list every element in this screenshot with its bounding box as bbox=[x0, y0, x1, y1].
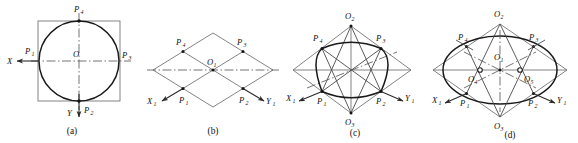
panel-b: P 4 P 3 P 1 P 2 O 1 X 1 bbox=[140, 0, 290, 143]
svg-text:P: P bbox=[24, 46, 31, 56]
svg-text:1: 1 bbox=[154, 101, 157, 107]
svg-text:3: 3 bbox=[382, 38, 386, 44]
svg-text:X: X bbox=[431, 95, 438, 105]
label-O2: O 2 bbox=[345, 11, 355, 22]
label-P3: P 3 bbox=[121, 50, 132, 61]
svg-text:P: P bbox=[375, 33, 382, 43]
label-O5: O 5 bbox=[524, 74, 534, 85]
label-P1: P 1 bbox=[178, 95, 189, 106]
label-O4: O 4 bbox=[468, 74, 478, 85]
svg-text:Y: Y bbox=[557, 95, 563, 105]
svg-text:1: 1 bbox=[467, 103, 470, 109]
point-P2-dot bbox=[77, 99, 80, 102]
large-arc-bottom bbox=[322, 92, 381, 98]
svg-text:O: O bbox=[345, 117, 351, 127]
svg-text:X: X bbox=[285, 93, 292, 103]
point-P4-dot bbox=[77, 19, 80, 22]
svg-text:P: P bbox=[528, 32, 535, 42]
svg-text:3: 3 bbox=[535, 37, 539, 43]
label-P2: P 2 bbox=[238, 95, 249, 106]
svg-text:P: P bbox=[527, 98, 534, 108]
caption-d: (d) bbox=[505, 130, 516, 141]
svg-text:P: P bbox=[236, 37, 243, 47]
large-arc-top bbox=[322, 42, 381, 48]
label-axis-X: X bbox=[6, 56, 13, 66]
point-O1-dot bbox=[499, 69, 502, 72]
svg-text:5: 5 bbox=[531, 79, 534, 85]
y1-axis-arrow bbox=[381, 92, 403, 102]
svg-text:P: P bbox=[238, 95, 245, 105]
svg-text:Y: Y bbox=[266, 96, 272, 106]
label-P4: P 4 bbox=[457, 32, 468, 43]
caption-c: (c) bbox=[350, 128, 360, 139]
label-axis-X1: X 1 bbox=[431, 95, 442, 106]
svg-text:2: 2 bbox=[91, 110, 94, 116]
svg-text:1: 1 bbox=[293, 98, 296, 104]
svg-text:2: 2 bbox=[352, 16, 355, 22]
svg-text:3: 3 bbox=[243, 42, 247, 48]
svg-text:P: P bbox=[121, 50, 128, 60]
svg-text:O: O bbox=[468, 74, 474, 84]
svg-text:2: 2 bbox=[501, 14, 504, 20]
y1-axis-arrow bbox=[534, 94, 556, 104]
svg-text:2: 2 bbox=[535, 103, 538, 109]
point-O2-dot bbox=[350, 25, 353, 28]
label-P4: P 4 bbox=[312, 33, 323, 44]
label-P1: P 1 bbox=[459, 98, 470, 109]
svg-text:4: 4 bbox=[475, 79, 478, 85]
label-P1: P 1 bbox=[24, 46, 35, 57]
point-O1-dot bbox=[212, 69, 215, 72]
svg-text:P: P bbox=[459, 98, 466, 108]
label-O1: O 1 bbox=[494, 52, 504, 63]
label-P3: P 3 bbox=[375, 33, 386, 44]
svg-text:1: 1 bbox=[412, 98, 415, 104]
point-O3-dot bbox=[350, 112, 353, 115]
label-axis-X1: X 1 bbox=[285, 93, 296, 104]
label-O2: O 2 bbox=[494, 9, 504, 20]
point-P1-dot bbox=[321, 90, 324, 93]
label-P2: P 2 bbox=[375, 96, 386, 107]
label-O3: O 3 bbox=[345, 117, 355, 128]
svg-text:P: P bbox=[73, 4, 80, 14]
svg-text:Y: Y bbox=[405, 93, 411, 103]
svg-text:O: O bbox=[494, 52, 500, 62]
point-O5-ring bbox=[518, 68, 523, 73]
svg-text:1: 1 bbox=[501, 57, 504, 63]
svg-text:1: 1 bbox=[32, 51, 35, 57]
svg-text:P: P bbox=[175, 37, 182, 47]
svg-text:4: 4 bbox=[183, 42, 186, 48]
svg-text:O: O bbox=[345, 11, 351, 21]
svg-text:4: 4 bbox=[81, 9, 84, 15]
svg-text:O: O bbox=[494, 121, 500, 131]
panel-d: O 2 O 3 O 1 O 4 O 5 P 4 bbox=[428, 0, 578, 143]
point-P2-dot bbox=[380, 90, 383, 93]
svg-text:2: 2 bbox=[246, 100, 249, 106]
panel-a: P 4 P 3 P 1 P 2 O X Y (a) bbox=[0, 0, 145, 143]
svg-text:4: 4 bbox=[320, 38, 323, 44]
point-P4-dot bbox=[321, 47, 324, 50]
svg-text:1: 1 bbox=[214, 62, 217, 68]
point-P2-dot bbox=[242, 87, 245, 90]
label-P1: P 1 bbox=[316, 96, 327, 107]
point-O4-ring bbox=[478, 68, 483, 73]
label-P2: P 2 bbox=[527, 98, 538, 109]
svg-text:O: O bbox=[524, 74, 530, 84]
figure-root: P 4 P 3 P 1 P 2 O X Y (a) bbox=[0, 0, 578, 143]
label-axis-Y1: Y 1 bbox=[266, 96, 276, 107]
svg-text:X: X bbox=[146, 96, 153, 106]
label-P2: P 2 bbox=[83, 105, 94, 116]
point-P1-dot bbox=[182, 87, 185, 90]
svg-text:O: O bbox=[207, 57, 213, 67]
svg-text:O: O bbox=[494, 9, 500, 19]
svg-text:1: 1 bbox=[324, 101, 327, 107]
svg-text:1: 1 bbox=[564, 100, 567, 106]
label-axis-Y1: Y 1 bbox=[405, 93, 415, 104]
svg-text:1: 1 bbox=[186, 100, 189, 106]
label-O: O bbox=[73, 49, 79, 59]
svg-text:P: P bbox=[312, 33, 319, 43]
panel-c: O 2 O 3 P 4 P 3 P 1 P 2 bbox=[285, 0, 435, 143]
point-P3-dot bbox=[242, 50, 245, 53]
label-P3: P 3 bbox=[236, 37, 247, 48]
svg-text:3: 3 bbox=[128, 55, 132, 61]
svg-text:3: 3 bbox=[500, 126, 504, 132]
